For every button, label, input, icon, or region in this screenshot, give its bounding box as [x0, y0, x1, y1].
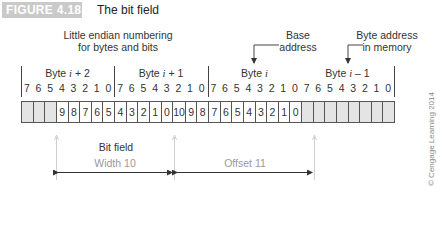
- bit-number: 4: [336, 82, 348, 94]
- byte-address-arrow-icon: [348, 45, 363, 63]
- copyright-note: © Cengage Learning 2014: [427, 92, 436, 186]
- bit-cells-row: 9876543210109876543210: [21, 101, 395, 123]
- byte-label-i-plus-1: Byte i + 1: [114, 67, 208, 79]
- bit-cell: 2: [267, 102, 279, 122]
- bit-number: 7: [208, 82, 220, 94]
- bit-number: 2: [359, 82, 371, 94]
- bit-number: 6: [33, 82, 45, 94]
- bit-cell: 9: [186, 102, 198, 122]
- bit-field-label: Bit field: [86, 141, 146, 153]
- bit-number: 1: [371, 82, 383, 94]
- width-label: Width 10: [80, 157, 150, 169]
- bit-cell-unused: [325, 102, 337, 122]
- bit-number: 5: [44, 82, 56, 94]
- bit-cell: 5: [103, 102, 115, 122]
- bit-cell-unused: [22, 102, 34, 122]
- bit-number: 1: [184, 82, 196, 94]
- bit-number: 7: [301, 82, 313, 94]
- bit-cell: 8: [197, 102, 209, 122]
- bit-number: 2: [173, 82, 185, 94]
- bit-cell-unused: [45, 102, 57, 122]
- bit-cell: 10: [173, 102, 186, 122]
- bit-cell-unused: [360, 102, 372, 122]
- bit-cell: 8: [69, 102, 81, 122]
- byte-label-i-plus-2: Byte i + 2: [21, 67, 114, 79]
- bit-cell: 0: [290, 102, 302, 122]
- bit-number: 3: [347, 82, 359, 94]
- bit-cell: 4: [244, 102, 256, 122]
- bit-cell: 0: [162, 102, 174, 122]
- byte-separator: [394, 66, 395, 97]
- bit-cell-unused: [314, 102, 326, 122]
- byte-label-i: Byte i: [208, 67, 301, 79]
- bit-number: 2: [79, 82, 91, 94]
- bit-number: 6: [126, 82, 138, 94]
- bit-number: 4: [56, 82, 68, 94]
- bit-cell-unused: [349, 102, 361, 122]
- bit-number: 2: [266, 82, 278, 94]
- base-address-arrow-icon: [254, 45, 279, 63]
- bit-number: 3: [254, 82, 266, 94]
- bit-cell: 3: [127, 102, 139, 122]
- bit-number: 7: [114, 82, 126, 94]
- bit-cell: 6: [92, 102, 104, 122]
- bit-cell: 7: [209, 102, 221, 122]
- bit-cell: 9: [57, 102, 69, 122]
- bit-number: 5: [231, 82, 243, 94]
- bit-cell-unused: [383, 102, 394, 122]
- bit-number: 4: [242, 82, 254, 94]
- bit-number: 3: [68, 82, 80, 94]
- bit-cell: 1: [150, 102, 162, 122]
- bit-cell: 4: [115, 102, 127, 122]
- bit-number: 0: [196, 82, 208, 94]
- bit-cell: 5: [232, 102, 244, 122]
- bit-number: 1: [91, 82, 103, 94]
- bit-cell-unused: [302, 102, 314, 122]
- bit-cell: 6: [221, 102, 233, 122]
- bit-number: 4: [149, 82, 161, 94]
- bit-cell-unused: [372, 102, 384, 122]
- byte-label-i-minus-1: Byte i – 1: [301, 67, 394, 79]
- bit-number: 5: [138, 82, 150, 94]
- bit-number: 0: [289, 82, 301, 94]
- bit-number: 5: [324, 82, 336, 94]
- bit-cell: 1: [279, 102, 291, 122]
- bit-cell: 7: [80, 102, 92, 122]
- bit-number: 0: [382, 82, 394, 94]
- bit-number: 1: [277, 82, 289, 94]
- bit-number: 6: [312, 82, 324, 94]
- offset-label: Offset 11: [210, 157, 280, 169]
- bit-number: 0: [103, 82, 115, 94]
- bit-number: 7: [21, 82, 33, 94]
- bit-number: 6: [219, 82, 231, 94]
- bit-cell-unused: [337, 102, 349, 122]
- bit-cell: 3: [256, 102, 268, 122]
- bit-number: 3: [161, 82, 173, 94]
- bit-cell-unused: [34, 102, 46, 122]
- bit-cell: 2: [138, 102, 150, 122]
